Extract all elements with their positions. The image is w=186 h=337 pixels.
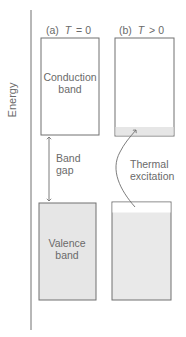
thermal-excitation-label: Thermal xyxy=(130,158,169,170)
panel-b-heading: (b) T > 0 xyxy=(119,24,164,36)
energy-axis-label: Energy xyxy=(6,82,18,117)
conduction-band-label: Conduction xyxy=(43,71,96,83)
band-diagram: Energy (a) T = 0 (b) T > 0 Conduction ba… xyxy=(0,0,186,337)
conduction-band-b-occupied xyxy=(116,127,174,136)
band-gap-label-2: gap xyxy=(56,164,74,176)
valence-band-label-2: band xyxy=(55,249,79,261)
band-gap-label: Band xyxy=(56,152,81,164)
valence-band-label: Valence xyxy=(48,237,85,249)
panel-a-heading: (a) T = 0 xyxy=(46,24,91,36)
valence-band-b xyxy=(112,202,171,300)
conduction-band-label-2: band xyxy=(58,83,82,95)
conduction-band-b xyxy=(115,38,174,136)
thermal-excitation-label-2: excitation xyxy=(130,170,175,182)
valence-band-b-depleted xyxy=(113,203,171,213)
